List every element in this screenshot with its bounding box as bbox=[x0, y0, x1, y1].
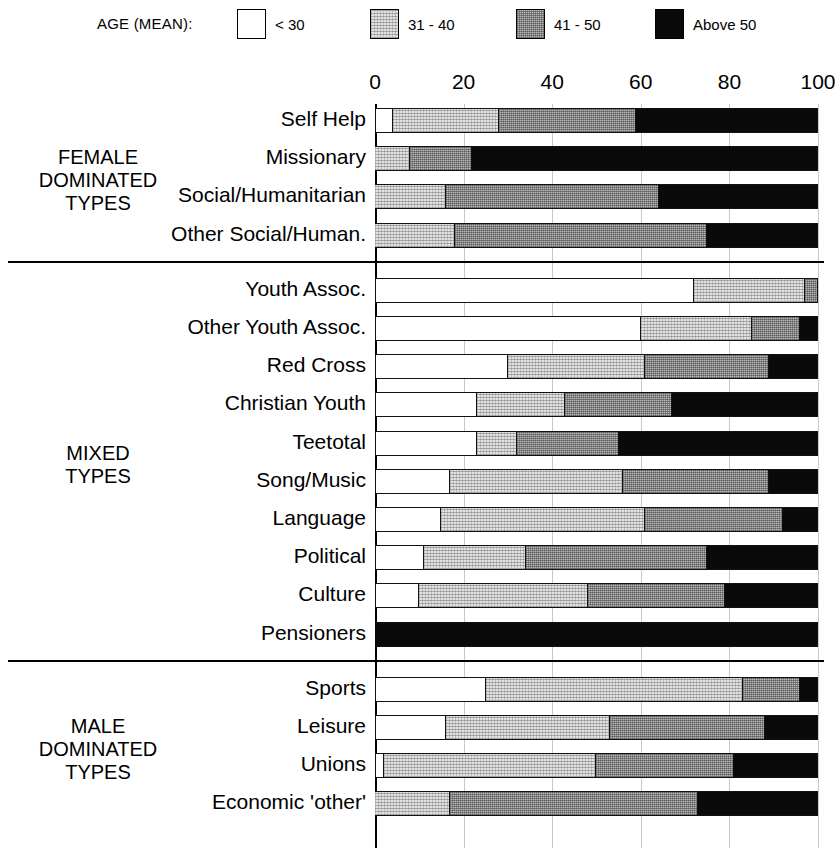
bar-segment-31-40 bbox=[424, 545, 526, 570]
bar-segment-above50 bbox=[725, 583, 818, 608]
bar-segment-above50 bbox=[619, 431, 818, 456]
bar-segment-31-40 bbox=[441, 507, 645, 532]
bar-segment-31-40 bbox=[375, 791, 450, 816]
stacked-bar bbox=[375, 108, 818, 133]
bar-segment-41-50 bbox=[623, 469, 769, 494]
bar-segment-lt30 bbox=[375, 753, 384, 778]
bar-segment-above50 bbox=[783, 507, 818, 532]
bar-segment-31-40 bbox=[486, 677, 743, 702]
legend-item-41-50: 41 - 50 bbox=[516, 9, 601, 39]
bar-segment-41-50 bbox=[645, 354, 769, 379]
bar-segment-lt30 bbox=[375, 545, 424, 570]
bar-segment-31-40 bbox=[375, 146, 410, 171]
bar-segment-31-40 bbox=[477, 431, 517, 456]
row-label: Other Social/Human. bbox=[171, 222, 366, 246]
x-axis-tick-80: 80 bbox=[718, 70, 741, 94]
bar-segment-41-50 bbox=[565, 392, 671, 417]
legend-label-31-40: 31 - 40 bbox=[408, 16, 455, 33]
row-label: Culture bbox=[298, 582, 366, 606]
stacked-bar bbox=[375, 715, 818, 740]
x-axis-tick-100: 100 bbox=[800, 70, 835, 94]
bar-segment-41-50 bbox=[610, 715, 765, 740]
chart-row: Sports bbox=[0, 673, 832, 705]
row-label: Other Youth Assoc. bbox=[187, 315, 366, 339]
bar-segment-lt30 bbox=[375, 469, 450, 494]
legend-item-lt30: < 30 bbox=[237, 9, 305, 39]
bar-segment-lt30 bbox=[375, 431, 477, 456]
bar-segment-31-40 bbox=[508, 354, 645, 379]
bar-segment-lt30 bbox=[375, 583, 419, 608]
group-separator bbox=[8, 660, 824, 662]
bar-segment-above50 bbox=[734, 753, 818, 778]
chart-row: Culture bbox=[0, 579, 832, 611]
row-label: Missionary bbox=[266, 145, 366, 169]
row-label: Economic 'other' bbox=[212, 790, 366, 814]
bar-segment-above50 bbox=[375, 622, 818, 647]
chart-row: Pensioners bbox=[0, 618, 832, 650]
legend-swatch-above50 bbox=[655, 9, 684, 39]
bar-segment-31-40 bbox=[446, 715, 610, 740]
bar-segment-lt30 bbox=[375, 278, 694, 303]
row-label: Social/Humanitarian bbox=[178, 183, 366, 207]
chart-row: Political bbox=[0, 541, 832, 573]
row-label: Red Cross bbox=[267, 353, 366, 377]
bar-segment-31-40 bbox=[375, 223, 455, 248]
legend-item-above50: Above 50 bbox=[655, 9, 756, 39]
bar-segment-41-50 bbox=[455, 223, 708, 248]
stacked-bar bbox=[375, 316, 818, 341]
legend-label-above50: Above 50 bbox=[693, 16, 756, 33]
bar-segment-above50 bbox=[707, 545, 818, 570]
bar-segment-lt30 bbox=[375, 392, 477, 417]
bar-segment-above50 bbox=[800, 677, 818, 702]
group-title-1: MIXED TYPES bbox=[8, 442, 188, 488]
x-axis-tick-60: 60 bbox=[629, 70, 652, 94]
chart-row: Language bbox=[0, 503, 832, 535]
bar-segment-41-50 bbox=[517, 431, 619, 456]
chart-row: Youth Assoc. bbox=[0, 274, 832, 306]
row-label: Unions bbox=[301, 752, 366, 776]
stacked-bar bbox=[375, 622, 818, 647]
chart-row: Other Youth Assoc. bbox=[0, 312, 832, 344]
bar-segment-41-50 bbox=[410, 146, 472, 171]
bar-segment-above50 bbox=[636, 108, 818, 133]
bar-segment-41-50 bbox=[446, 184, 659, 209]
stacked-bar bbox=[375, 278, 818, 303]
stacked-bar bbox=[375, 677, 818, 702]
stacked-bar bbox=[375, 545, 818, 570]
legend-swatch-lt30 bbox=[237, 9, 266, 39]
bar-segment-lt30 bbox=[375, 715, 446, 740]
bar-segment-above50 bbox=[769, 469, 818, 494]
bar-segment-41-50 bbox=[588, 583, 725, 608]
row-label: Sports bbox=[305, 676, 366, 700]
row-label: Pensioners bbox=[261, 621, 366, 645]
row-label: Youth Assoc. bbox=[245, 277, 366, 301]
legend-item-31-40: 31 - 40 bbox=[370, 9, 455, 39]
stacked-bar bbox=[375, 392, 818, 417]
row-label: Leisure bbox=[297, 714, 366, 738]
bar-segment-41-50 bbox=[645, 507, 782, 532]
bar-segment-above50 bbox=[765, 715, 818, 740]
bar-segment-41-50 bbox=[450, 791, 698, 816]
chart-row: Self Help bbox=[0, 104, 832, 136]
chart-row: Christian Youth bbox=[0, 388, 832, 420]
legend-label-lt30: < 30 bbox=[275, 16, 305, 33]
x-axis-tick-0: 0 bbox=[369, 70, 381, 94]
legend: AGE (MEAN): < 30 31 - 40 41 - 50 Above 5… bbox=[0, 0, 832, 56]
stacked-bar-chart: 020406080100 Self HelpMissionarySocial/H… bbox=[0, 56, 832, 855]
bar-segment-above50 bbox=[800, 316, 818, 341]
bar-segment-above50 bbox=[472, 146, 818, 171]
bar-segment-above50 bbox=[698, 791, 818, 816]
chart-row: Economic 'other' bbox=[0, 787, 832, 819]
stacked-bar bbox=[375, 431, 818, 456]
bar-segment-31-40 bbox=[375, 184, 446, 209]
legend-title: AGE (MEAN): bbox=[97, 15, 193, 32]
bar-segment-lt30 bbox=[375, 108, 393, 133]
bar-segment-lt30 bbox=[375, 354, 508, 379]
bar-segment-31-40 bbox=[694, 278, 805, 303]
row-label: Self Help bbox=[281, 107, 366, 131]
bar-segment-41-50 bbox=[752, 316, 801, 341]
bar-segment-31-40 bbox=[419, 583, 587, 608]
x-axis-tick-40: 40 bbox=[541, 70, 564, 94]
stacked-bar bbox=[375, 791, 818, 816]
stacked-bar bbox=[375, 184, 818, 209]
